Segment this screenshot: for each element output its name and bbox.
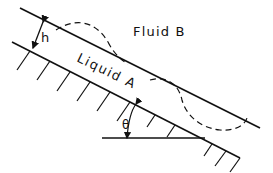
diagram-canvas: h Fluid B Liquid A θ <box>0 0 273 173</box>
fluid-b-label: Fluid B <box>133 24 186 39</box>
wall-hatching <box>17 51 240 172</box>
thickness-label: h <box>41 30 49 45</box>
liquid-a-label: Liquid A <box>75 50 139 92</box>
wall-line <box>12 42 240 158</box>
angle-label: θ <box>122 118 129 132</box>
inclined-film-diagram: h Fluid B Liquid A θ <box>0 0 273 173</box>
